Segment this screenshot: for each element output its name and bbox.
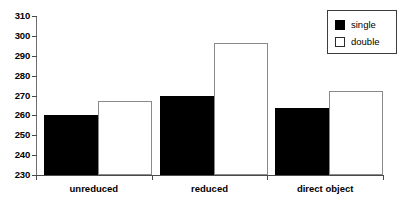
bar-single-direct-object	[275, 108, 329, 175]
y-axis-tick	[32, 16, 37, 17]
legend-swatch-single-icon	[335, 20, 345, 30]
legend: single double	[327, 10, 397, 54]
x-axis-category-label: unreduced	[70, 184, 119, 194]
legend-label-single: single	[351, 20, 376, 30]
bar-single-reduced	[160, 96, 214, 176]
x-axis-line	[36, 175, 384, 176]
x-axis-category-label: reduced	[191, 184, 228, 194]
y-axis-tick	[32, 155, 37, 156]
y-axis-tick	[32, 76, 37, 77]
bar-single-unreduced	[44, 115, 98, 175]
legend-item-double: double	[335, 33, 396, 50]
y-axis-tick	[32, 96, 37, 97]
legend-item-single: single	[335, 16, 396, 33]
y-axis-tick	[32, 115, 37, 116]
x-axis-tick	[383, 175, 384, 180]
y-axis-tick	[32, 135, 37, 136]
x-axis-category-label: direct object	[297, 184, 354, 194]
bar-double-direct-object	[329, 91, 383, 175]
y-axis-tick	[32, 36, 37, 37]
legend-swatch-double-icon	[335, 37, 345, 47]
x-axis-tick	[152, 175, 153, 180]
x-axis-tick	[36, 175, 37, 180]
x-axis-tick	[267, 175, 268, 180]
y-axis-tick	[32, 56, 37, 57]
bar-chart: 310300290280270260250240230 unreducedred…	[0, 0, 401, 207]
legend-label-double: double	[351, 37, 380, 47]
bar-double-unreduced	[98, 101, 152, 175]
bar-double-reduced	[214, 43, 268, 175]
